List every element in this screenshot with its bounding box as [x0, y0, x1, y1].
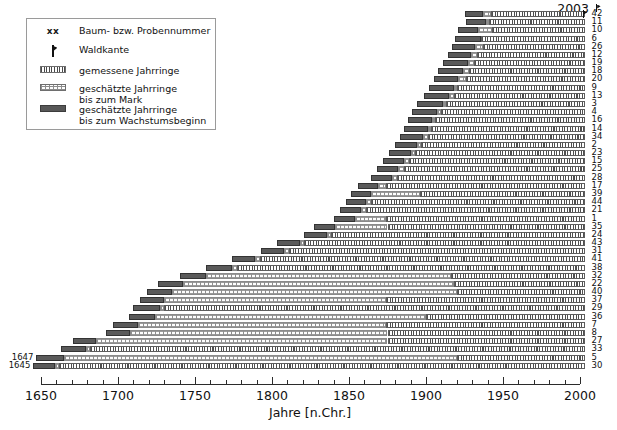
segment-pith-estimate	[138, 322, 386, 328]
dendro-chart: xx Baum- bzw. Probennummer Waldkante gem…	[0, 0, 617, 430]
legend-label-measured-rings: gemessene Jahrringe	[79, 66, 179, 77]
segment-measured-rings	[435, 117, 584, 123]
segment-measured-rings	[426, 314, 585, 320]
x-axis-minor-tick	[534, 380, 535, 384]
sample-number-label: 3	[592, 100, 597, 106]
segment-measured-rings	[260, 256, 585, 262]
x-axis-minor-tick	[565, 380, 566, 384]
sample-number-label: 24	[592, 231, 603, 237]
sample-number-label: 28	[592, 174, 603, 180]
x-axis-minor-tick	[164, 380, 165, 384]
segment-growth-start	[389, 150, 411, 156]
x-axis-minor-tick	[549, 380, 550, 384]
segment-growth-start	[438, 68, 463, 74]
sample-number-label: 23	[592, 149, 603, 155]
legend-key-growth-start-rings	[27, 105, 79, 112]
legend-item-waldkante: Waldkante	[27, 45, 215, 57]
x-axis-minor-tick	[364, 380, 365, 384]
x-axis-minor-tick	[488, 380, 489, 384]
sample-number-label: 13	[592, 92, 603, 98]
sample-number-label: 17	[592, 182, 603, 188]
segment-growth-start	[140, 297, 165, 303]
pith-rings-swatch-icon	[40, 84, 66, 91]
sample-number-label: 1	[592, 215, 597, 221]
growth-start-swatch-icon	[40, 105, 66, 112]
segment-measured-rings	[366, 207, 585, 213]
sample-number-label: 26	[592, 43, 603, 49]
segment-pith-estimate	[458, 76, 466, 82]
x-axis-minor-tick	[87, 380, 88, 384]
segment-measured-rings	[421, 142, 584, 148]
x-axis-major-tick	[426, 377, 427, 384]
legend-item-measured-rings: gemessene Jahrringe	[27, 66, 215, 77]
segment-pith-estimate	[355, 216, 386, 222]
sample-number-label: 32	[592, 272, 603, 278]
sample-number-label: 16	[592, 116, 603, 122]
segment-growth-start	[106, 330, 131, 336]
segment-measured-rings	[90, 346, 584, 352]
segment-measured-rings	[489, 19, 584, 25]
sample-number-label: 31	[592, 247, 603, 253]
segment-growth-start	[314, 224, 336, 230]
segment-growth-start	[448, 52, 471, 58]
segment-measured-rings	[386, 216, 585, 222]
segment-growth-start	[455, 36, 481, 42]
sample-number-label: 37	[592, 296, 603, 302]
sample-number-label: 2	[592, 141, 597, 147]
sample-number-label: 35	[592, 223, 603, 229]
segment-measured-rings	[388, 330, 585, 336]
x-axis-major-tick	[580, 377, 581, 384]
x-axis-title: Jahre [n.Chr.]	[200, 405, 420, 420]
segment-measured-rings	[59, 363, 584, 369]
segment-growth-start	[206, 265, 232, 271]
segment-pith-estimate	[130, 330, 387, 336]
segment-measured-rings	[431, 126, 585, 132]
x-axis-minor-tick	[133, 380, 134, 384]
sample-number-label: 41	[592, 255, 603, 261]
segment-growth-start	[466, 19, 486, 25]
segment-measured-rings	[454, 93, 585, 99]
segment-pith-estimate	[371, 191, 420, 197]
x-axis-minor-tick	[210, 380, 211, 384]
x-axis-major-tick	[272, 377, 273, 384]
segment-growth-start	[129, 314, 155, 320]
x-axis-major-tick	[503, 377, 504, 384]
x-axis-major-tick	[41, 377, 42, 384]
segment-measured-rings	[388, 338, 585, 344]
segment-measured-rings	[289, 248, 585, 254]
segment-measured-rings	[415, 150, 584, 156]
segment-growth-start	[61, 346, 86, 352]
x-axis-minor-tick	[518, 380, 519, 384]
sample-number-label: 21	[592, 206, 603, 212]
sample-number-label: 36	[592, 313, 603, 319]
segment-growth-start	[147, 289, 172, 295]
segment-pith-estimate	[164, 297, 386, 303]
segment-growth-start	[133, 305, 159, 311]
segment-measured-rings	[386, 297, 585, 303]
sample-number-label: 11	[592, 18, 603, 24]
segment-measured-rings	[420, 191, 585, 197]
segment-growth-start	[73, 338, 96, 344]
x-axis-minor-tick	[257, 380, 258, 384]
sample-number-label: 43	[592, 239, 603, 245]
sample-number-label: 6	[592, 35, 597, 41]
x-axis-tick-label: 1650	[11, 388, 71, 403]
segment-measured-rings	[491, 11, 585, 17]
segment-growth-start	[351, 191, 371, 197]
sample-number-label: 44	[592, 198, 603, 204]
segment-pith-estimate	[475, 44, 483, 50]
x-axis-minor-tick	[472, 380, 473, 384]
sample-number-label: 8	[592, 329, 597, 335]
segment-measured-rings	[446, 101, 585, 107]
start-year-label: 1647	[6, 354, 33, 360]
segment-growth-start	[180, 273, 206, 279]
segment-measured-rings	[371, 199, 585, 205]
segment-pith-estimate	[478, 27, 492, 33]
sample-number-label: 38	[592, 264, 603, 270]
legend-key-measured-rings	[27, 66, 79, 73]
segment-growth-start	[404, 126, 427, 132]
x-axis-tick-label: 1700	[88, 388, 148, 403]
segment-measured-rings	[331, 232, 585, 238]
sample-number-label: 15	[592, 157, 603, 163]
segment-measured-rings	[457, 85, 585, 91]
